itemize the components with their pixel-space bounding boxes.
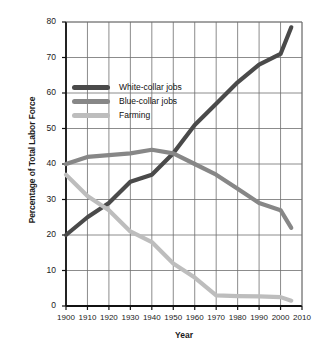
y-tick-label: 50 [34,123,56,133]
line-chart: Percentage of Total Labor Force Year 010… [0,0,328,351]
x-axis-title: Year [66,330,302,340]
legend-label: Farming [119,110,150,120]
y-tick-label: 20 [34,229,56,239]
legend-label: Blue-collar jobs [119,96,177,106]
legend-swatch-icon [72,99,110,104]
y-tick-label: 70 [34,52,56,62]
legend-swatch-icon [72,85,110,90]
legend-item: White-collar jobs [72,80,182,94]
y-tick-label: 60 [34,87,56,97]
grid-lines [66,22,302,306]
legend-swatch-icon [72,113,110,118]
y-tick-label: 40 [34,158,56,168]
x-tick-label: 2010 [287,313,317,322]
y-tick-label: 30 [34,194,56,204]
legend-item: Farming [72,108,182,122]
y-tick-label: 80 [34,16,56,26]
legend-item: Blue-collar jobs [72,94,182,108]
chart-legend: White-collar jobsBlue-collar jobsFarming [72,80,182,122]
y-tick-label: 0 [34,300,56,310]
series-line-blue-collar-jobs [66,150,291,228]
legend-label: White-collar jobs [119,82,182,92]
y-tick-label: 10 [34,265,56,275]
series-line-farming [66,175,291,301]
